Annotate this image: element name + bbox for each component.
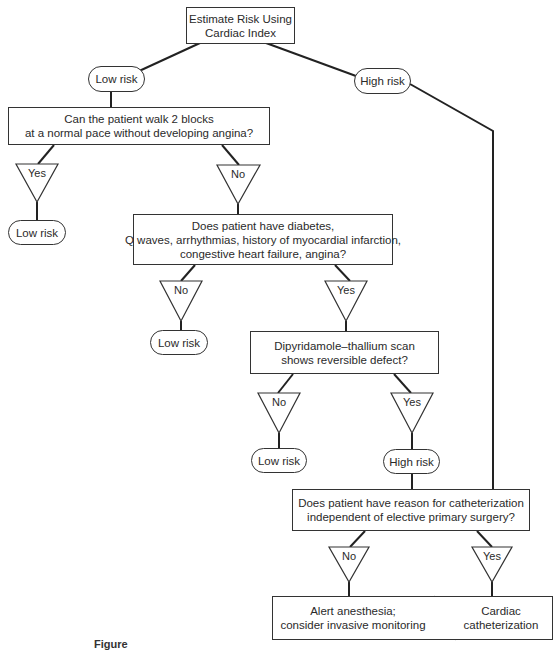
q2-no-label: No bbox=[159, 284, 203, 296]
question-text: congestive heart failure, angina? bbox=[125, 247, 401, 261]
start-text: Cardiac Index bbox=[189, 26, 292, 40]
question-history-box: Does patient have diabetes, Q waves, arr… bbox=[133, 214, 393, 265]
question-text: Does patient have diabetes, bbox=[125, 219, 401, 233]
low-risk-pill: Low risk bbox=[251, 448, 307, 473]
outcome-text: consider invasive monitoring bbox=[280, 618, 425, 632]
q4-yes-label: Yes bbox=[470, 550, 514, 562]
question-text: Dipyridamole–thallium scan bbox=[274, 339, 415, 353]
q4-no-label: No bbox=[327, 550, 371, 562]
question-text: shows reversible defect? bbox=[274, 353, 415, 367]
low-risk-pill: Low risk bbox=[88, 66, 145, 92]
outcome-text: catheterization bbox=[464, 618, 539, 632]
question-catheterization-box: Does patient have reason for catheteriza… bbox=[292, 489, 530, 531]
cardiac-catheterization-outcome: Cardiac catheterization bbox=[450, 597, 552, 639]
alert-anesthesia-outcome: Alert anesthesia; consider invasive moni… bbox=[273, 597, 433, 639]
outcome-text: Alert anesthesia; bbox=[280, 604, 425, 618]
q3-yes-label: Yes bbox=[390, 396, 434, 408]
question-text: Can the patient walk 2 blocks bbox=[25, 112, 253, 126]
low-risk-pill: Low risk bbox=[8, 220, 66, 245]
outcome-text: Cardiac bbox=[464, 604, 539, 618]
figure-caption: Figure bbox=[94, 638, 128, 650]
question-text: independent of elective primary surgery? bbox=[298, 510, 524, 524]
question-text: at a normal pace without developing angi… bbox=[25, 126, 253, 140]
question-text: Does patient have reason for catheteriza… bbox=[298, 496, 524, 510]
question-walk-box: Can the patient walk 2 blocks at a norma… bbox=[8, 107, 270, 145]
low-risk-pill: Low risk bbox=[150, 330, 208, 355]
start-box: Estimate Risk Using Cardiac Index bbox=[186, 7, 295, 44]
question-text: Q waves, arrhythmias, history of myocard… bbox=[125, 233, 401, 247]
q1-yes-label: Yes bbox=[15, 167, 59, 179]
high-risk-pill: High risk bbox=[354, 68, 411, 94]
q1-no-label: No bbox=[216, 168, 260, 180]
start-text: Estimate Risk Using bbox=[189, 12, 292, 26]
high-risk-pill: High risk bbox=[383, 449, 440, 474]
connector-start-high bbox=[266, 43, 356, 76]
connector-start-low bbox=[137, 43, 200, 72]
q2-yes-label: Yes bbox=[324, 284, 368, 296]
question-scan-box: Dipyridamole–thallium scan shows reversi… bbox=[250, 331, 439, 374]
connector-high-rail bbox=[410, 84, 493, 489]
q3-no-label: No bbox=[257, 396, 301, 408]
